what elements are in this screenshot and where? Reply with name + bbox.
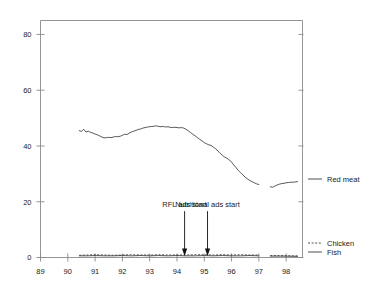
x-tick-label: 94	[173, 267, 181, 276]
y-tick-label: 20	[23, 198, 31, 207]
annotation-label: Nutritional ads start	[175, 200, 241, 209]
y-tick-label: 80	[23, 30, 31, 39]
legend-label-red-meat: Red meat	[327, 175, 360, 184]
chart-container: 020406080 89909192939495969798 RFL ads s…	[0, 0, 378, 296]
legend-label-chicken: Chicken	[327, 239, 354, 248]
y-tick-label: 40	[23, 142, 31, 151]
x-tick-label: 90	[64, 267, 72, 276]
x-tick-label: 96	[227, 267, 235, 276]
x-tick-label: 92	[118, 267, 126, 276]
x-tick-label: 91	[91, 267, 99, 276]
x-tick-label: 89	[36, 267, 44, 276]
x-tick-label: 98	[282, 267, 290, 276]
line-chart: 020406080 89909192939495969798 RFL ads s…	[0, 0, 378, 296]
legend-label-fish: Fish	[327, 248, 341, 257]
x-tick-label: 95	[200, 267, 208, 276]
y-tick-label: 0	[27, 253, 31, 262]
y-tick-label: 60	[23, 86, 31, 95]
x-tick-label: 97	[255, 267, 263, 276]
x-tick-label: 93	[145, 267, 153, 276]
